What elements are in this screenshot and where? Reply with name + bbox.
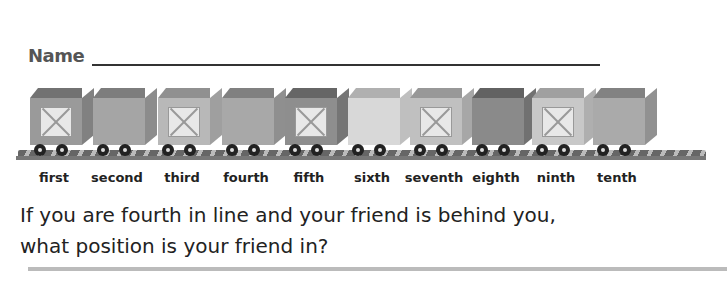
ordinal-label-fifth: fifth [294,170,325,185]
car-top [30,88,82,98]
ordinal-label-fourth: fourth [223,170,269,185]
wheel-icon [34,144,46,156]
crate-icon [420,107,452,137]
train-car-tenth [593,88,657,152]
wheel-icon [498,144,510,156]
wheel-icon [97,144,109,156]
name-label: Name [28,45,84,66]
ordinal-label-seventh: seventh [405,170,464,185]
car-top [158,88,210,98]
train-car-seventh [410,88,474,152]
wheel-icon [162,144,174,156]
wheel-icon [436,144,448,156]
train-car-third [158,88,222,152]
car-top [472,88,524,98]
car-side [145,88,157,145]
train-car-fifth [285,88,349,152]
crate-icon [168,107,200,137]
car-side [645,88,657,145]
car-top [93,88,145,98]
car-side [210,88,222,145]
ordinal-label-ninth: ninth [537,170,575,185]
wheel-icon [184,144,196,156]
wheel-icon [248,144,260,156]
name-write-line[interactable] [92,44,600,66]
car-top [285,88,337,98]
ordinal-label-third: third [164,170,200,185]
train-car-first [30,88,94,152]
wheel-icon [558,144,570,156]
train-car-sixth [348,88,412,152]
car-front [348,98,400,145]
car-top [410,88,462,98]
track-base [16,156,706,160]
wheel-icon [311,144,323,156]
train-illustration [12,88,712,163]
wheel-icon [226,144,238,156]
wheel-icon [414,144,426,156]
train-car-second [93,88,157,152]
car-top [593,88,645,98]
train-car-fourth [222,88,286,152]
ordinal-label-second: second [91,170,143,185]
car-front [93,98,145,145]
crate-icon [295,107,327,137]
train-car-ninth [532,88,596,152]
ordinal-label-sixth: sixth [354,170,390,185]
car-front [222,98,274,145]
wheel-icon [119,144,131,156]
question-line-2: what position is your friend in? [20,231,556,262]
wheel-icon [476,144,488,156]
wheel-icon [619,144,631,156]
car-top [348,88,400,98]
car-top [222,88,274,98]
ordinal-label-eighth: eighth [472,170,519,185]
wheel-icon [352,144,364,156]
ordinal-label-first: first [39,170,69,185]
ordinal-label-tenth: tenth [597,170,637,185]
wheel-icon [56,144,68,156]
wheel-icon [597,144,609,156]
name-row: Name [28,44,600,66]
wheel-icon [289,144,301,156]
wheel-icon [536,144,548,156]
car-front [472,98,524,145]
crate-icon [40,107,72,137]
car-front [593,98,645,145]
question-text: If you are fourth in line and your frien… [20,200,556,262]
question-line-1: If you are fourth in line and your frien… [20,200,556,231]
car-top [532,88,584,98]
wheel-icon [374,144,386,156]
train-car-eighth [472,88,536,152]
answer-rule [28,267,727,271]
crate-icon [542,107,574,137]
